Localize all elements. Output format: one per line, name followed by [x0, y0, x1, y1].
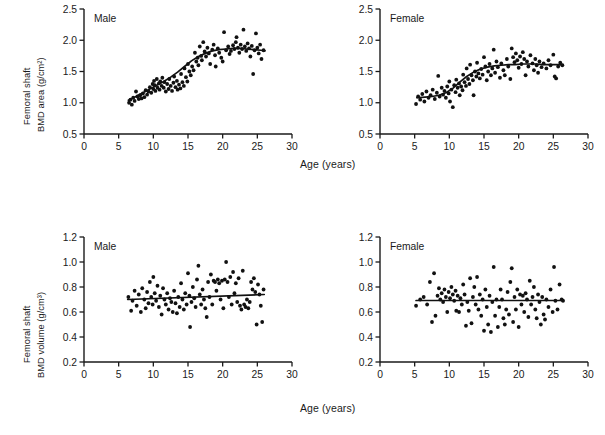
x-tick-label: 20	[217, 141, 229, 152]
y-tick-label: 0.2	[63, 357, 78, 368]
x-tick-label: 5	[412, 141, 418, 152]
y-tick-label: 1.0	[359, 97, 374, 108]
scatter-plot-male-bmd-area: 0.51.01.52.02.5051015202530Male	[48, 0, 298, 155]
y-tick-label: 2.5	[63, 4, 78, 15]
y-tick-label: 1.0	[359, 257, 374, 268]
scatter-plot-male-bmd-volume: 0.20.40.60.81.01.2051015202530Male	[48, 228, 298, 388]
panel-label: Female	[390, 13, 425, 24]
x-axis-title-top: Age (years)	[300, 158, 355, 170]
x-tick-label: 5	[116, 369, 122, 380]
y-tick-label: 0.4	[63, 332, 78, 343]
x-tick-label: 5	[116, 141, 122, 152]
y-tick-label: 0.8	[359, 282, 374, 293]
x-tick-label: 0	[81, 369, 87, 380]
y-tick-label: 1.2	[359, 232, 374, 243]
y-tick-label: 0.2	[359, 357, 374, 368]
x-tick-label: 15	[478, 141, 490, 152]
y-tick-label: 0.8	[63, 282, 78, 293]
x-tick-label: 25	[252, 369, 264, 380]
panel-bottom-left: 0.20.40.60.81.01.2051015202530Male	[48, 228, 298, 388]
data-points	[414, 265, 565, 334]
y-tick-label: 2.0	[359, 35, 374, 46]
x-tick-label: 20	[513, 369, 525, 380]
scatter-plot-female-bmd-area: 0.51.01.52.02.5051015202530Female	[344, 0, 594, 155]
x-tick-label: 30	[582, 369, 594, 380]
x-tick-label: 15	[182, 141, 194, 152]
x-tick-label: 10	[148, 141, 160, 152]
y-axis-title-top-line1: Femoral shaft	[22, 68, 32, 125]
x-tick-label: 15	[182, 369, 194, 380]
scatter-plot-female-bmd-volume: 0.20.40.60.81.01.2051015202530Female	[344, 228, 594, 388]
y-tick-label: 1.5	[359, 66, 374, 77]
y-axis-title-bottom-line2: BMD volume (g/cm³)	[36, 292, 46, 378]
x-tick-label: 30	[286, 141, 298, 152]
panel-label: Female	[390, 241, 425, 252]
y-tick-label: 0.5	[359, 129, 374, 140]
x-tick-label: 25	[548, 369, 560, 380]
x-tick-label: 20	[217, 369, 229, 380]
panel-label: Male	[94, 241, 117, 252]
x-tick-label: 10	[444, 369, 456, 380]
x-tick-label: 30	[582, 141, 594, 152]
x-tick-label: 0	[377, 369, 383, 380]
x-tick-label: 30	[286, 369, 298, 380]
panel-top-left: 0.51.01.52.02.5051015202530Male	[48, 0, 298, 155]
panel-top-right: 0.51.01.52.02.5051015202530Female	[344, 0, 594, 155]
x-tick-label: 10	[444, 141, 456, 152]
figure-bmd-vs-age: Femoral shaft BMD area (g/cm²) 0.51.01.5…	[0, 0, 605, 435]
x-tick-label: 15	[478, 369, 490, 380]
x-tick-label: 5	[412, 369, 418, 380]
y-tick-label: 1.2	[63, 232, 78, 243]
y-tick-label: 0.6	[63, 307, 78, 318]
y-tick-label: 1.0	[63, 97, 78, 108]
y-tick-label: 2.0	[63, 35, 78, 46]
data-points	[414, 46, 564, 109]
y-axis-title-bottom-line1: Femoral shaft	[22, 306, 32, 363]
x-tick-label: 0	[377, 141, 383, 152]
x-tick-label: 25	[548, 141, 560, 152]
y-tick-label: 1.0	[63, 257, 78, 268]
data-points	[127, 28, 265, 107]
y-tick-label: 1.5	[63, 66, 78, 77]
y-axis-title-top-line2: BMD area (g/cm²)	[36, 57, 46, 132]
x-tick-label: 0	[81, 141, 87, 152]
x-tick-label: 25	[252, 141, 264, 152]
x-axis-title-bottom: Age (years)	[300, 402, 355, 414]
panel-label: Male	[94, 13, 117, 24]
x-tick-label: 10	[148, 369, 160, 380]
y-tick-label: 0.4	[359, 332, 374, 343]
x-tick-label: 20	[513, 141, 525, 152]
y-tick-label: 0.6	[359, 307, 374, 318]
panel-bottom-right: 0.20.40.60.81.01.2051015202530Female	[344, 228, 594, 388]
y-tick-label: 0.5	[63, 129, 78, 140]
y-tick-label: 2.5	[359, 4, 374, 15]
